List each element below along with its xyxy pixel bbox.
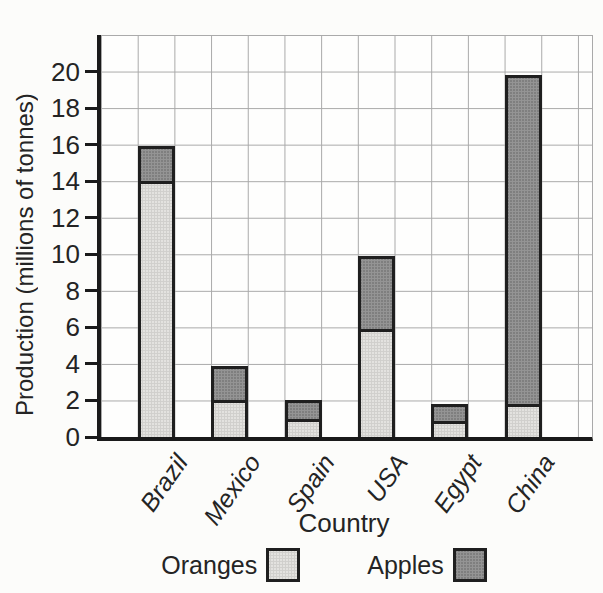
bar-egypt-oranges-segment [434, 424, 465, 437]
x-category-label-usa: USA [361, 449, 414, 508]
bar-spain-oranges-segment [288, 422, 319, 437]
chart-canvas: Production (millions of tonnes) 02468101… [0, 0, 603, 593]
bar-china-oranges-segment [508, 407, 539, 437]
bar-egypt [431, 404, 468, 437]
bar-brazil [138, 146, 175, 437]
legend-swatch-apples [453, 548, 487, 582]
y-tick [85, 326, 98, 329]
bar-spain [285, 400, 322, 437]
x-category-label-brazil: Brazil [134, 449, 194, 517]
legend: Oranges Apples [0, 548, 603, 582]
bar-china [505, 75, 542, 437]
bar-usa [358, 256, 395, 437]
bar-china-apples-segment [508, 78, 539, 407]
y-tick [85, 399, 98, 402]
bar-usa-apples-segment [361, 259, 392, 332]
bar-mexico-oranges-segment [214, 403, 245, 437]
bar-mexico-apples-segment [214, 369, 245, 404]
y-tick-label: 6 [24, 312, 80, 342]
y-tick [85, 436, 98, 439]
y-tick [85, 253, 98, 256]
y-tick-label: 2 [24, 385, 80, 415]
legend-label-oranges: Oranges [161, 551, 257, 580]
y-tick [85, 362, 98, 365]
legend-label-apples: Apples [367, 551, 443, 580]
y-tick-label: 0 [24, 422, 80, 452]
bar-mexico [211, 366, 248, 437]
bar-brazil-oranges-segment [141, 184, 172, 437]
y-tick-label: 10 [24, 239, 80, 269]
bar-usa-oranges-segment [361, 332, 392, 437]
y-tick-label: 18 [24, 93, 80, 123]
y-tick-label: 12 [24, 203, 80, 233]
bar-egypt-apples-segment [434, 407, 465, 423]
y-tick-label: 14 [24, 166, 80, 196]
y-tick-label: 16 [24, 130, 80, 160]
bar-brazil-apples-segment [141, 149, 172, 184]
y-tick [85, 70, 98, 73]
y-tick [85, 107, 98, 110]
y-tick-label: 4 [24, 349, 80, 379]
legend-item-oranges: Oranges [161, 548, 300, 582]
y-tick [85, 216, 98, 219]
y-tick [85, 180, 98, 183]
y-tick-label: 8 [24, 276, 80, 306]
legend-item-apples: Apples [367, 548, 486, 582]
y-tick-label: 20 [24, 57, 80, 87]
x-axis-title: Country [97, 508, 591, 539]
bar-spain-apples-segment [288, 403, 319, 421]
y-tick [85, 289, 98, 292]
y-tick [85, 143, 98, 146]
legend-swatch-oranges [266, 548, 300, 582]
